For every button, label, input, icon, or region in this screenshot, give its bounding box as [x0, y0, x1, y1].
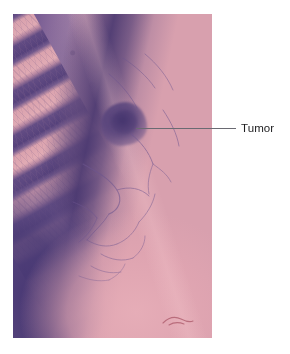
lung-specimen-photograph — [13, 14, 212, 338]
tumor-label: Tumor — [241, 121, 274, 135]
figure-container: Tumor — [0, 0, 290, 354]
tumor-leader-line — [136, 128, 236, 129]
photo-vignette — [13, 14, 212, 338]
